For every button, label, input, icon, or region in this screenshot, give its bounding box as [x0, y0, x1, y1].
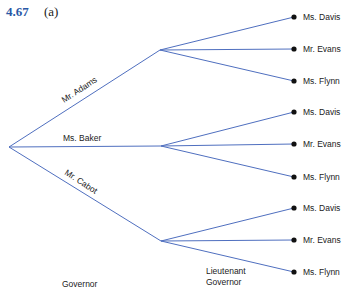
- subtree-cabot: Ms. Davis Mr. Evans Ms. Flynn: [161, 203, 341, 277]
- subtree-baker: Ms. Davis Mr. Evans Ms. Flynn: [161, 107, 341, 182]
- leaf-label: Ms. Davis: [303, 203, 340, 213]
- leaf-dot: [291, 109, 296, 114]
- leaf-label: Mr. Evans: [303, 44, 341, 54]
- level1-title: Governor: [62, 279, 98, 289]
- leaf-label: Ms. Flynn: [303, 76, 340, 86]
- level2-title-line2: Governor: [206, 277, 242, 287]
- edge-root-baker: [9, 146, 161, 147]
- leaf-dot: [291, 237, 296, 242]
- leaf-dot: [291, 269, 296, 274]
- leaf-dot: [291, 205, 296, 210]
- leaf-dot: [291, 46, 296, 51]
- edge-root-cabot: [9, 147, 161, 241]
- leaf-dot: [291, 78, 296, 83]
- leaf-dot: [291, 174, 296, 179]
- leaf-label: Ms. Flynn: [303, 172, 340, 182]
- tree-diagram: Mr. Adams Ms. Baker Mr. Cabot Ms. Davis …: [0, 0, 351, 296]
- leaf-label: Ms. Flynn: [303, 267, 340, 277]
- level2-title-line1: Lieutenant: [206, 266, 246, 276]
- leaf-label: Mr. Evans: [303, 139, 341, 149]
- branch-label-adams: Mr. Adams: [60, 74, 99, 104]
- leaf-label: Mr. Evans: [303, 235, 341, 245]
- leaf-label: Ms. Davis: [303, 107, 340, 117]
- leaf-label: Ms. Davis: [303, 12, 340, 22]
- leaf-dot: [291, 141, 296, 146]
- subtree-adams: Ms. Davis Mr. Evans Ms. Flynn: [160, 12, 341, 86]
- branch-label-baker: Ms. Baker: [63, 133, 101, 143]
- leaf-dot: [291, 14, 296, 19]
